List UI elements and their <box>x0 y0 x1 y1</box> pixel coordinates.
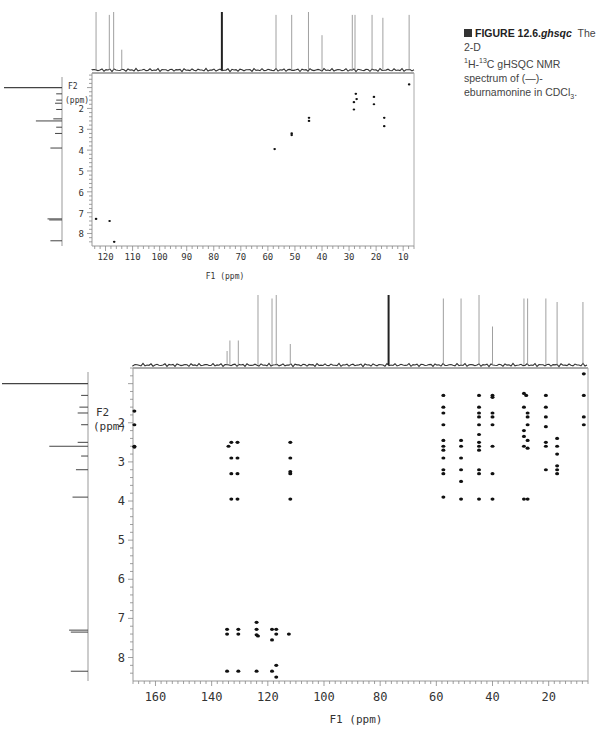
cross-peak <box>477 441 481 444</box>
cross-peak <box>477 394 481 397</box>
cross-peak <box>459 456 463 459</box>
cross-peak <box>373 96 376 98</box>
cross-peak <box>95 218 98 220</box>
projection-13c-baseline <box>133 363 587 366</box>
cross-peak <box>287 632 291 635</box>
cross-peak <box>459 468 463 471</box>
cross-peak <box>491 445 495 448</box>
cross-peak <box>477 411 481 414</box>
x-tick-label: 30 <box>344 252 355 262</box>
cross-peak <box>353 108 356 110</box>
cross-peak <box>582 372 586 375</box>
cross-peak <box>491 423 495 426</box>
cross-peak <box>555 437 559 440</box>
x-tick-label: 20 <box>371 252 382 262</box>
cross-peak <box>288 456 292 459</box>
cross-peak <box>235 456 239 459</box>
bottom-hsqc-chart: 160140120100806040202345678F1 (ppm)F2(pp… <box>2 295 588 726</box>
cross-peak <box>383 117 386 119</box>
y-tick-label: 5 <box>79 167 84 177</box>
y-tick-label: 4 <box>118 494 125 508</box>
cross-peak <box>555 445 559 448</box>
cross-peak <box>274 664 278 667</box>
cross-peak <box>526 447 530 450</box>
x-tick-label: 80 <box>208 252 219 262</box>
cross-peak <box>544 445 548 448</box>
cross-peak <box>477 497 481 500</box>
cross-peak <box>236 632 240 635</box>
cross-peak <box>441 439 445 442</box>
cross-peak <box>441 411 445 414</box>
cross-peak <box>522 435 526 438</box>
cross-peak <box>582 394 586 397</box>
projection-13c-baseline <box>92 68 414 71</box>
cross-peak <box>235 472 239 475</box>
cross-peak <box>441 472 445 475</box>
cross-peak <box>544 406 548 409</box>
cross-peak <box>441 449 445 452</box>
hsqc-charts: 1201101009080706050403020102345678F1 (pp… <box>0 0 601 735</box>
cross-peak <box>491 396 495 399</box>
cross-peak <box>522 445 526 448</box>
cross-peak <box>544 468 548 471</box>
x-tick-label: 60 <box>262 252 273 262</box>
cross-peak <box>132 423 136 426</box>
y-tick-label: 5 <box>118 533 125 547</box>
cross-peak <box>477 445 481 448</box>
cross-peak <box>582 423 586 426</box>
cross-peak <box>113 241 116 243</box>
cross-peak <box>522 406 526 409</box>
y-tick-label: 8 <box>79 229 84 239</box>
cross-peak <box>459 497 463 500</box>
cross-peak <box>225 632 229 635</box>
x-tick-label: 60 <box>429 690 443 704</box>
cross-peak <box>288 472 292 475</box>
cross-peak <box>273 148 276 150</box>
cross-peak <box>477 415 481 418</box>
y-axis-title-line1: F2 <box>96 406 109 419</box>
cross-peak <box>355 98 358 100</box>
cross-peak <box>373 103 376 105</box>
cross-peak <box>555 464 559 467</box>
top-hsqc-chart: 1201101009080706050403020102345678F1 (pp… <box>4 12 414 281</box>
cross-peak <box>441 406 445 409</box>
cross-peak <box>441 468 445 471</box>
cross-peak <box>255 628 259 631</box>
cross-peak <box>526 411 530 414</box>
cross-peak <box>270 638 274 641</box>
cross-peak <box>459 445 463 448</box>
cross-peak <box>108 220 111 222</box>
y-tick-label: 6 <box>79 188 84 198</box>
x-tick-label: 120 <box>257 690 279 704</box>
cross-peak <box>491 497 495 500</box>
cross-peak <box>229 472 233 475</box>
cross-peak <box>355 93 358 95</box>
cross-peak <box>544 441 548 444</box>
y-tick-label: 7 <box>79 209 84 219</box>
cross-peak <box>459 439 463 442</box>
cross-peak <box>290 134 293 136</box>
cross-peak <box>441 394 445 397</box>
cross-peak <box>544 425 548 428</box>
cross-peak <box>255 621 259 624</box>
y-tick-label: 4 <box>79 146 84 156</box>
x-tick-label: 50 <box>290 252 301 262</box>
cross-peak <box>132 409 136 412</box>
cross-peak <box>235 497 239 500</box>
cross-peak <box>522 429 526 432</box>
cross-peak <box>491 411 495 414</box>
cross-peak <box>353 101 356 103</box>
cross-peak <box>408 83 411 85</box>
cross-peak <box>308 120 311 122</box>
cross-peak <box>274 628 278 631</box>
x-axis-title: F1 (ppm) <box>206 272 245 281</box>
y-tick-label: 3 <box>118 455 125 469</box>
x-tick-label: 10 <box>398 252 409 262</box>
cross-peak <box>477 468 481 471</box>
cross-peak <box>524 394 528 397</box>
cross-peak <box>491 415 495 418</box>
cross-peak <box>522 497 526 500</box>
cross-peak <box>236 670 240 673</box>
x-tick-label: 70 <box>235 252 246 262</box>
cross-peak <box>383 125 386 127</box>
